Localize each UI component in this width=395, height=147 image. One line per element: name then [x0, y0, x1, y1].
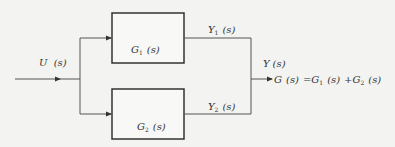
transfer-function-equation: G(s)=G1(s)+G2(s) [274, 74, 381, 86]
input-label: U (s) [39, 57, 67, 68]
block-g1: G1(s) [112, 13, 184, 63]
block-diagram: U (s) G1(s) G2(s) Y1(s) Y2(s) Y(s) G(s)=… [0, 0, 395, 147]
y1-label: Y1(s) [208, 24, 235, 36]
output-label: Y(s) [263, 58, 286, 69]
block-g2: G2(s) [112, 89, 184, 139]
y1-line [184, 38, 251, 79]
y2-label: Y2(s) [208, 101, 235, 113]
